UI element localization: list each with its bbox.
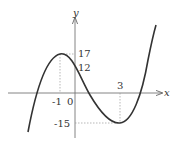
label-17: 17 — [78, 48, 91, 59]
cubic-graph: y x 17 12 -1 0 3 -15 — [0, 0, 183, 147]
origin-label: 0 — [67, 96, 73, 107]
cubic-curve — [28, 25, 156, 132]
x-axis-label: x — [164, 87, 170, 98]
label-neg15: -15 — [54, 118, 70, 129]
y-axis-label: y — [72, 7, 79, 18]
label-3: 3 — [117, 80, 123, 91]
label-12: 12 — [78, 62, 91, 73]
label-neg1: -1 — [52, 96, 62, 107]
